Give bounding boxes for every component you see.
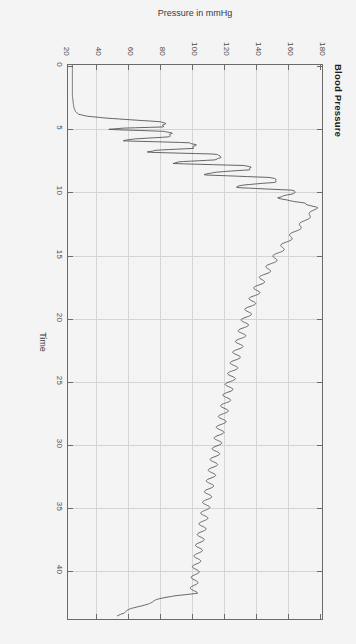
y-axis-tick-label: 120	[222, 42, 231, 56]
x-axis-tick-label: 30	[55, 439, 64, 448]
y-axis-tick-label: 100	[190, 42, 199, 56]
x-axis-tick-label: 35	[55, 502, 64, 511]
y-axis-tick-label: 160	[286, 42, 295, 56]
x-axis-tick-label: 0	[55, 62, 64, 67]
series-line	[72, 65, 317, 616]
x-axis-label: Time	[38, 64, 48, 620]
x-axis-tick-label: 5	[55, 125, 64, 130]
x-axis-tick-label: 25	[55, 376, 64, 385]
x-axis-tick-label: 20	[55, 313, 64, 322]
y-axis-tick-label: 60	[126, 47, 135, 56]
y-axis-label: Pressure in mmHg	[67, 6, 323, 20]
y-axis-tick-label: 180	[318, 42, 327, 56]
x-axis-tick-label: 40	[55, 565, 64, 574]
data-trace	[68, 65, 322, 619]
figure-page: Blood Pressure 0510152025303540204060801…	[0, 0, 356, 644]
y-axis-tick-label: 40	[94, 47, 103, 56]
plot-area	[68, 65, 322, 619]
rotated-figure-wrapper: Blood Pressure 0510152025303540204060801…	[0, 0, 356, 644]
plot-frame	[67, 64, 323, 620]
chart-figure: Blood Pressure 0510152025303540204060801…	[0, 0, 356, 644]
y-axis-tick-label: 20	[62, 47, 71, 56]
y-axis-tick-label: 140	[254, 42, 263, 56]
x-axis-tick-label: 10	[55, 186, 64, 195]
y-axis-label-text: Pressure in mmHg	[158, 8, 233, 18]
x-axis-tick-label: 15	[55, 250, 64, 259]
y-axis-tick-label: 80	[158, 47, 167, 56]
chart-title: Blood Pressure	[333, 64, 344, 620]
